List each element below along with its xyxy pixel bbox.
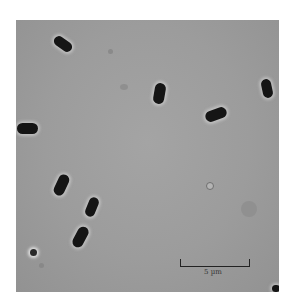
scale-bar (180, 259, 250, 267)
bacterium-cell (17, 123, 38, 134)
bacterium-cell (84, 196, 101, 218)
micrograph-image: 5 µm (16, 20, 279, 292)
bacterium-cell (52, 34, 74, 54)
bacterium-cell (52, 173, 71, 198)
debris-particle (120, 84, 128, 90)
bacterium-cell (70, 225, 90, 250)
bacterium-cell (152, 82, 166, 105)
debris-particle (241, 201, 257, 217)
scale-bar-label: 5 µm (204, 268, 222, 276)
debris-particle (39, 263, 44, 268)
bacterium-cell (260, 78, 274, 99)
debris-particle (30, 249, 37, 256)
debris-particle (206, 182, 214, 190)
debris-particle (108, 49, 113, 54)
bacterium-cell (272, 285, 279, 292)
bacterium-cell (204, 106, 228, 124)
